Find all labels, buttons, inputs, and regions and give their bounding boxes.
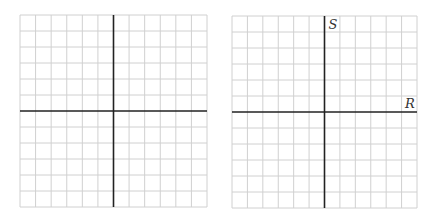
left-coordinate-grid [20, 15, 207, 207]
diagram-canvas: S R [0, 0, 436, 216]
right-coordinate-grid [232, 16, 417, 208]
x-axis-label-r: R [404, 96, 415, 111]
y-axis-label-s: S [329, 17, 338, 32]
